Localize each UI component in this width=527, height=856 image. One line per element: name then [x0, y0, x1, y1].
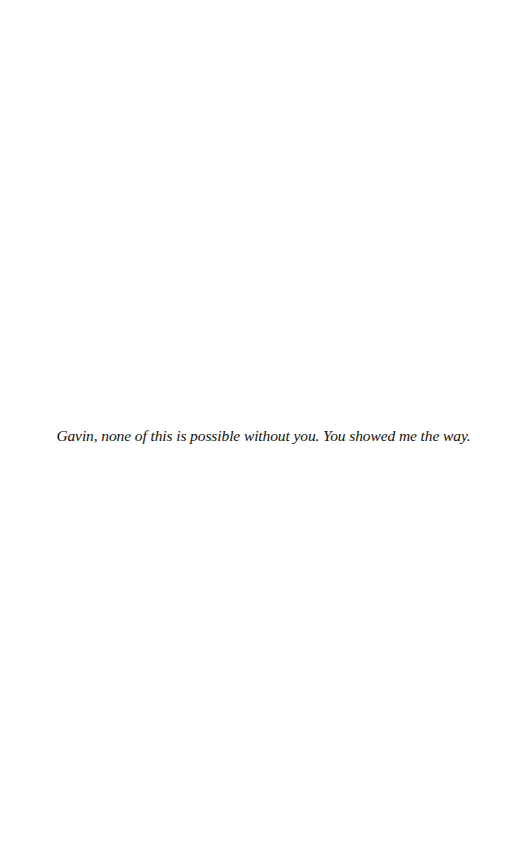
dedication-text: Gavin, none of this is possible without …: [0, 426, 527, 446]
book-page: Gavin, none of this is possible without …: [0, 0, 527, 856]
